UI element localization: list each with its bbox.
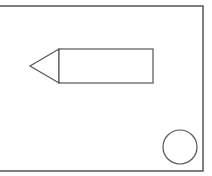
circle-shape: [163, 130, 197, 164]
diagram-canvas: [0, 0, 212, 176]
pencil-tip-triangle: [30, 49, 59, 83]
frame-rectangle: [0, 6, 203, 171]
pencil-body-rectangle: [59, 49, 153, 83]
